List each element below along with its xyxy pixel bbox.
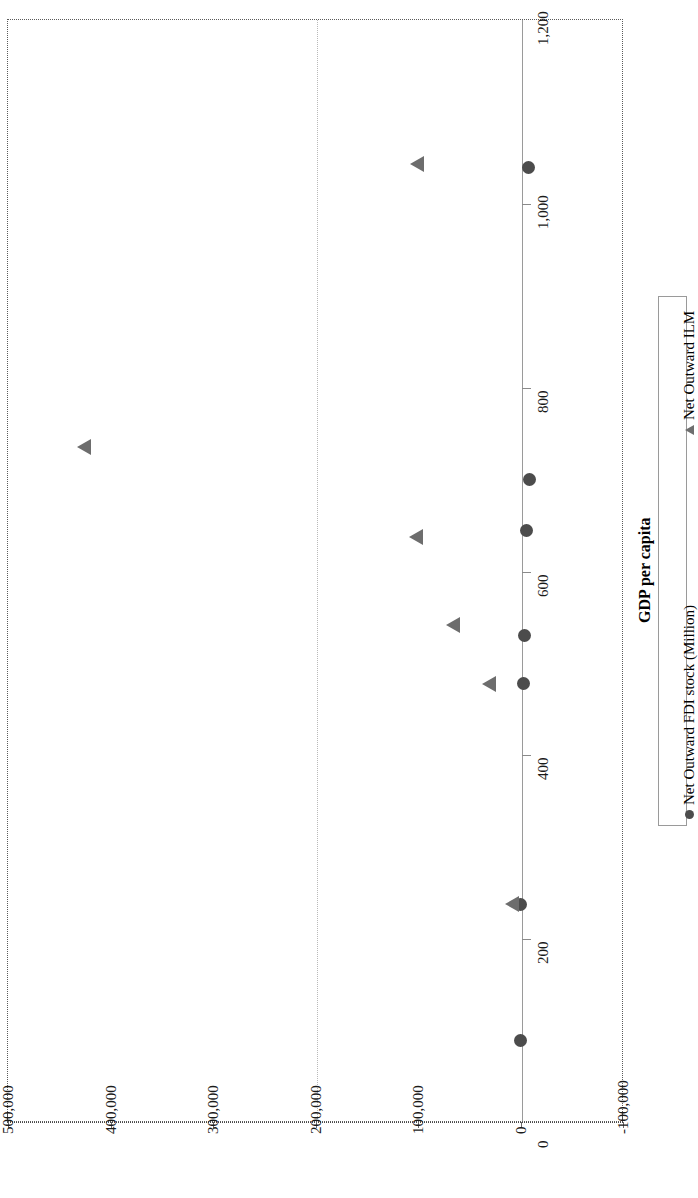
category-tick-800 (522, 388, 531, 389)
data-point-s1-3 (446, 617, 460, 633)
category-tick-label-800: 800 (535, 390, 552, 413)
legend-entry-fdi[interactable]: Net Outward FDI stock (Million) (680, 605, 698, 819)
category-axis-line (522, 20, 523, 1121)
value-tick-label-400000: 400,000 (103, 1085, 120, 1134)
category-tick-label-1000: 1,000 (535, 195, 552, 229)
category-tick-400 (522, 755, 531, 756)
category-tick-label-400: 400 (535, 758, 552, 781)
legend-label-fdi: Net Outward FDI stock (Million) (681, 605, 697, 805)
category-tick-label-0: 0 (535, 1141, 552, 1149)
value-tick-label-200000: 200,000 (308, 1085, 325, 1134)
data-point-s0-4 (517, 677, 530, 690)
value-tick-label-500000: 500,000 (0, 1085, 17, 1134)
data-point-s1-0 (410, 156, 424, 172)
value-tick-label--100000: -100,000 (615, 1080, 632, 1134)
category-tick-label-200: 200 (535, 942, 552, 965)
category-tick-label-600: 600 (535, 574, 552, 597)
category-tick-200 (522, 939, 531, 940)
category-tick-1000 (522, 204, 531, 205)
data-point-s1-5 (505, 896, 519, 912)
plot-area (7, 19, 623, 1122)
data-point-s0-2 (520, 524, 533, 537)
value-tick-label-0: 0 (513, 1127, 530, 1135)
axis-title: GDP per capita (636, 518, 654, 623)
data-point-s1-4 (482, 676, 496, 692)
data-point-s1-1 (77, 439, 91, 455)
triangle-marker-icon (685, 425, 694, 435)
data-point-s0-0 (522, 161, 535, 174)
circle-marker-icon (685, 810, 694, 819)
legend-label-ilm: Net Outward ILM (681, 311, 697, 420)
legend-entry-ilm[interactable]: Net Outward ILM (680, 311, 698, 435)
category-tick-600 (522, 572, 531, 573)
data-point-s0-1 (523, 473, 536, 486)
value-tick-label-100000: 100,000 (410, 1085, 427, 1134)
value-tick-label-300000: 300,000 (205, 1085, 222, 1134)
chart-legend: Net Outward FDI stock (Million) Net Outw… (658, 296, 687, 826)
category-tick-label-1200: 1,200 (535, 11, 552, 45)
data-point-s1-2 (409, 529, 423, 545)
data-point-s0-6 (514, 1034, 527, 1047)
data-point-s0-3 (518, 629, 531, 642)
gridline-200000 (317, 20, 318, 1121)
